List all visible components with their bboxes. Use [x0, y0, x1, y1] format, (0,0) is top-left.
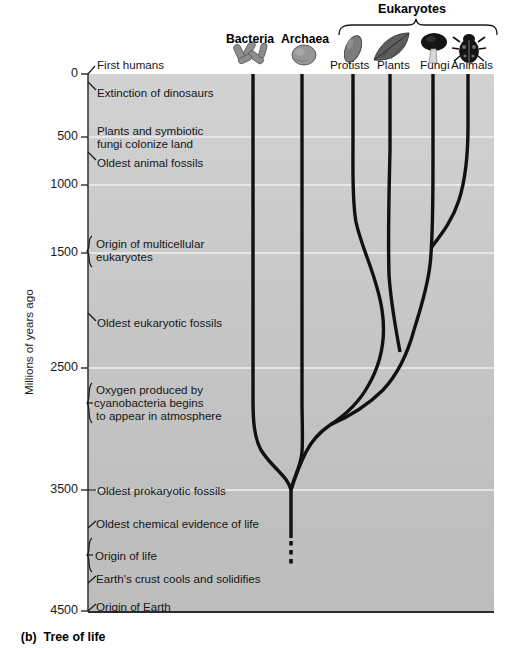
eukaryotes-group-label: Eukaryotes	[378, 2, 446, 16]
tick-label-0: 0	[36, 66, 78, 80]
event-label-oldest-eukaryotic-fossils: Oldest eukaryotic fossils	[97, 316, 222, 329]
taxon-label-animals: Animals	[451, 59, 493, 72]
taxon-label-bacteria: Bacteria	[226, 33, 274, 47]
caption-text: Tree of life	[44, 630, 106, 644]
event-label-earth-crust: Earth's crust cools and solidifies	[96, 572, 261, 585]
tick-label-1000: 1000	[36, 177, 78, 191]
event-label-oxygen-line3: to appear in atmosphere	[96, 409, 222, 422]
tick-label-4500: 4500	[36, 603, 78, 617]
taxon-label-archaea: Archaea	[281, 33, 329, 47]
tick-label-3500: 3500	[36, 482, 78, 496]
event-label-multicellular-line2: eukaryotes	[96, 250, 153, 263]
event-label-origin-of-earth: Origin of Earth	[96, 600, 171, 613]
event-label-oldest-animal-fossils: Oldest animal fossils	[97, 156, 203, 169]
tick-label-500: 500	[36, 129, 78, 143]
event-label-oxygen-line1: Oxygen produced by	[96, 383, 203, 396]
axis-ticks	[81, 74, 88, 611]
figure-caption: (b) Tree of life	[7, 617, 105, 648]
event-label-multicellular-line1: Origin of multicellular	[96, 237, 204, 250]
event-label-oxygen-line2: cyanobacteria begins	[94, 396, 204, 409]
event-label-plants-fungi-line2: fungi colonize land	[97, 137, 193, 150]
event-label-extinction-dinosaurs: Extinction of dinosaurs	[97, 86, 214, 99]
tick-label-1500: 1500	[36, 245, 78, 259]
event-label-plants-fungi-line1: Plants and symbiotic	[97, 124, 203, 137]
tick-label-2500: 2500	[36, 360, 78, 374]
event-label-oldest-prokaryotic-fossils: Oldest prokaryotic fossils	[97, 484, 226, 497]
event-label-oldest-chemical-evidence: Oldest chemical evidence of life	[96, 517, 259, 530]
taxon-label-protists: Protists	[330, 59, 369, 72]
taxon-label-fungi: Fungi	[420, 59, 450, 72]
event-label-origin-of-life: Origin of life	[95, 549, 157, 562]
caption-number: (b)	[21, 630, 37, 644]
y-axis-title: Millions of years ago	[22, 289, 35, 395]
event-label-first-humans: First humans	[97, 58, 164, 71]
taxon-label-plants: Plants	[377, 59, 410, 72]
leader-first-humans	[88, 66, 95, 74]
